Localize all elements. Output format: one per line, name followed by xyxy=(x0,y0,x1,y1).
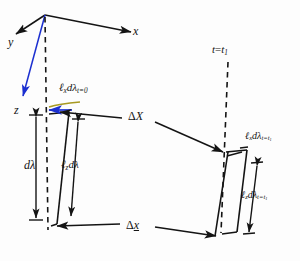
time-subscript: t=t1 xyxy=(261,134,271,141)
time-subscript-prefix: t=t xyxy=(257,193,265,200)
label-d-lambda: dλ xyxy=(24,159,35,171)
label-lz-dlambda: ℓzdλ xyxy=(61,159,79,172)
delta-symbol: Δ xyxy=(126,218,134,232)
t-sub-index: 1 xyxy=(224,49,228,57)
dashed-worldline-t0 xyxy=(45,17,48,230)
spacetime-displacement-diagram: y x z t=t1 ℓxdλt=0 dλ ℓzdλ ΔX Δx ℓxdλt=t… xyxy=(0,0,300,261)
label-delta-x-underlined: Δx xyxy=(126,219,139,231)
time-subscript: t=0 xyxy=(77,87,88,95)
lambda-symbol: λ xyxy=(30,158,35,172)
axis-label-z: z xyxy=(14,104,19,116)
time-subscript-index: 1 xyxy=(265,196,267,201)
time-subscript-index: 1 xyxy=(270,137,272,142)
axis-label-y: y xyxy=(8,36,13,48)
x-axis-line xyxy=(45,15,131,32)
label-t-equals-t1: t=t1 xyxy=(212,44,228,57)
label-delta-X: ΔX xyxy=(128,110,143,122)
dashed-worldline-t1 xyxy=(221,62,228,233)
x-symbol-underlined: x xyxy=(134,218,139,232)
lambda-symbol: λ xyxy=(74,158,79,170)
axis-label-x: x xyxy=(133,25,138,37)
X-symbol: X xyxy=(136,109,143,123)
label-lx-dlambda-t1: ℓxdλt=t1 xyxy=(245,131,272,143)
time-subscript: t=t1 xyxy=(257,193,267,200)
delta-symbol: Δ xyxy=(128,109,136,123)
label-lz-dlambda-t1: ℓzdλt=t1 xyxy=(241,190,267,202)
label-lx-dlambda-t0: ℓxdλt=0 xyxy=(59,82,88,95)
time-subscript-prefix: t=t xyxy=(261,134,269,141)
lx-dlambda-t0-arrow xyxy=(49,102,80,110)
